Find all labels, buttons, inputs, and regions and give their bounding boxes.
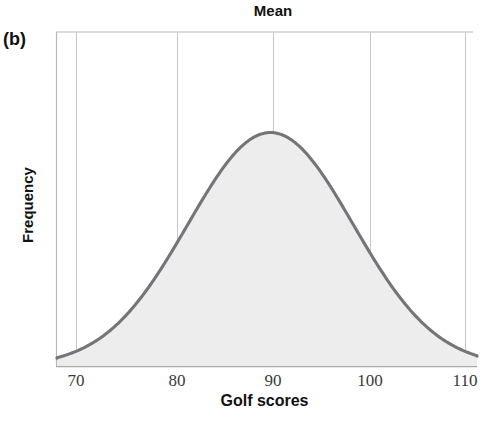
x-tick-label-90: 90: [243, 371, 303, 391]
x-tick-label-100: 100: [340, 371, 400, 391]
x-axis-title: Golf scores: [56, 392, 473, 410]
chart-plot-area: [0, 0, 488, 421]
distribution-fill-area: [57, 133, 477, 366]
x-tick-label-80: 80: [147, 371, 207, 391]
x-tick-label-110: 110: [435, 371, 488, 391]
x-tick-label-70: 70: [46, 371, 106, 391]
